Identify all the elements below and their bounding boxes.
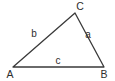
- vertex-label-c: C: [76, 1, 84, 11]
- vertex-label-b: B: [100, 69, 107, 79]
- side-label-a: a: [85, 30, 91, 40]
- triangle-shape: [0, 0, 115, 81]
- vertex-label-a: A: [6, 69, 13, 79]
- triangle-diagram: A B C a b c: [0, 0, 115, 81]
- side-label-b: b: [31, 29, 37, 39]
- side-label-c: c: [56, 56, 61, 66]
